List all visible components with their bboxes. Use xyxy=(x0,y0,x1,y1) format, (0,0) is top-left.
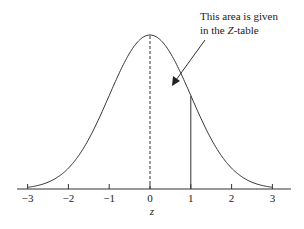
annotation-arrow-shaft xyxy=(176,40,205,80)
x-axis-ticks: −3−2−10123 xyxy=(22,184,276,204)
normal-curve-diagram: −3−2−10123 This area is given in the Z-t… xyxy=(0,0,304,229)
x-tick-label: −3 xyxy=(22,192,34,204)
x-tick-label: 3 xyxy=(270,192,276,204)
annotation-line-1: This area is given xyxy=(200,10,278,22)
x-tick-label: −2 xyxy=(63,192,75,204)
annotation-arrow-head-icon xyxy=(172,76,180,86)
x-tick-label: 2 xyxy=(229,192,235,204)
annotation-line-2: in the Z-table xyxy=(200,24,259,36)
x-tick-label: 0 xyxy=(147,192,153,204)
x-tick-label: −1 xyxy=(103,192,115,204)
x-axis-label: z xyxy=(149,205,155,217)
x-tick-label: 1 xyxy=(188,192,194,204)
